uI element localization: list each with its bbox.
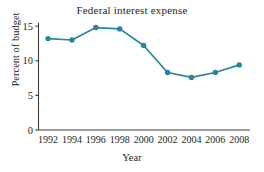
plot-area: 051015 199219941996199820002002200420062… bbox=[0, 0, 264, 172]
data-point bbox=[189, 75, 194, 80]
x-tick-label: 2004 bbox=[181, 134, 201, 145]
data-point bbox=[93, 25, 98, 30]
y-tick-label: 0 bbox=[28, 125, 33, 136]
chart-figure: Federal interest expense Percent of budg… bbox=[0, 0, 264, 172]
data-series-markers bbox=[45, 25, 242, 80]
y-tick-label: 10 bbox=[23, 55, 34, 66]
x-tick-label: 2006 bbox=[205, 134, 225, 145]
y-axis-ticks: 051015 bbox=[23, 21, 39, 136]
x-tick-label: 2002 bbox=[158, 134, 178, 145]
y-tick-label: 5 bbox=[28, 90, 33, 101]
x-tick-label: 2008 bbox=[229, 134, 249, 145]
data-point bbox=[237, 62, 242, 67]
data-point bbox=[69, 37, 74, 42]
x-tick-label: 2000 bbox=[134, 134, 154, 145]
y-tick-label: 15 bbox=[23, 21, 34, 32]
data-point bbox=[45, 36, 50, 41]
data-series-line bbox=[48, 28, 239, 78]
x-tick-label: 1996 bbox=[86, 134, 106, 145]
x-axis-ticks: 199219941996199820002002200420062008 bbox=[38, 134, 249, 145]
data-point bbox=[117, 26, 122, 31]
data-point bbox=[213, 70, 218, 75]
x-tick-label: 1994 bbox=[62, 134, 82, 145]
x-tick-label: 1992 bbox=[38, 134, 58, 145]
data-point bbox=[165, 70, 170, 75]
x-tick-label: 1998 bbox=[110, 134, 130, 145]
data-point bbox=[141, 43, 146, 48]
